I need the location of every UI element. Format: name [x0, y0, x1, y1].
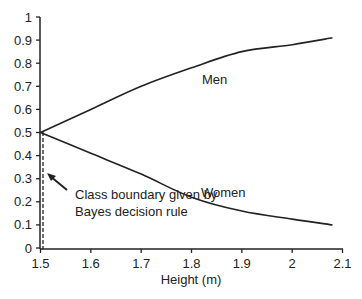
y-tick-label: 0 [25, 241, 32, 256]
women-label: Women [201, 185, 246, 200]
x-ticks: 1.51.61.71.81.922.1 [31, 249, 351, 271]
men-label: Men [202, 72, 227, 87]
x-tick-label: 1.7 [132, 256, 150, 271]
x-tick-label: 1.9 [233, 256, 251, 271]
y-tick-label: 0.5 [14, 125, 32, 140]
y-tick-label: 0.2 [14, 194, 32, 209]
x-axis-label: Height (m) [161, 272, 222, 287]
x-tick-label: 1.8 [182, 256, 200, 271]
y-tick-label: 0.7 [14, 79, 32, 94]
x-tick-label: 1.6 [82, 256, 100, 271]
x-tick-label: 1.5 [31, 256, 49, 271]
y-tick-label: 0.6 [14, 102, 32, 117]
y-tick-label: 0.4 [14, 148, 32, 163]
y-tick-label: 0.8 [14, 56, 32, 71]
annotation-line1: Class boundary given by [75, 187, 218, 202]
x-tick-label: 2.1 [333, 256, 351, 271]
men-curve [41, 38, 333, 133]
y-tick-label: 0.1 [14, 217, 32, 232]
x-tick-label: 2 [289, 256, 296, 271]
y-tick-label: 0.9 [14, 33, 32, 48]
y-tick-label: 1 [25, 10, 32, 25]
chart: 00.10.20.30.40.50.60.70.80.91 1.51.61.71… [0, 0, 362, 299]
y-tick-label: 0.3 [14, 171, 32, 186]
y-ticks: 00.10.20.30.40.50.60.70.80.91 [14, 10, 40, 256]
annotation-line2: Bayes decision rule [75, 204, 188, 219]
